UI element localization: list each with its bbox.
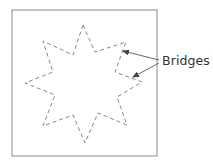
- square-frame: [12, 10, 157, 156]
- bridge-arrows: [123, 51, 159, 77]
- eight-pointed-star-outline: [25, 25, 142, 143]
- arrow-2: [133, 63, 159, 77]
- arrow-1: [123, 51, 159, 60]
- bridges-diagram: [0, 0, 213, 163]
- bridges-label: Bridges: [162, 53, 210, 68]
